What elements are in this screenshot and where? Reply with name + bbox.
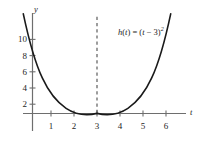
x-tick-label-6: 6 (164, 122, 169, 131)
x-tick-label-4: 4 (118, 122, 123, 131)
y-tick-label-8: 8 (14, 51, 27, 60)
x-tick-label-5: 5 (141, 122, 146, 131)
equation-equals: = ( (130, 27, 142, 37)
equation-annotation: h(t) = (t − 3)2 (118, 26, 164, 36)
function-graph-figure: y t 10 8 6 4 2 1 2 3 4 5 6 h(t) = (t − 3… (0, 0, 206, 142)
x-tick-label-2: 2 (72, 122, 77, 131)
y-tick-label-4: 4 (14, 84, 27, 93)
equation-minus-three: − 3) (145, 27, 161, 37)
x-axis-label: t (190, 108, 192, 117)
y-tick-label-10: 10 (14, 35, 27, 44)
y-tick-label-2: 2 (14, 100, 27, 109)
x-tick-label-1: 1 (49, 122, 54, 131)
x-tick-label-3: 3 (95, 122, 100, 131)
equation-exponent: 2 (161, 26, 164, 32)
y-tick-label-6: 6 (14, 67, 27, 76)
plot-area (0, 0, 206, 142)
y-axis-label: y (34, 5, 38, 14)
